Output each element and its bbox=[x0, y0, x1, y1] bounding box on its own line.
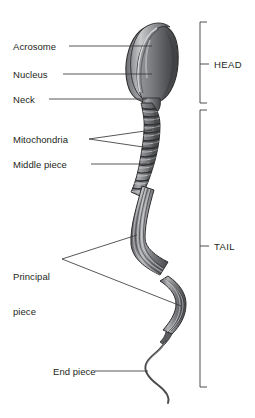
label-principal-piece-line2: piece bbox=[13, 306, 50, 318]
label-mitochondria: Mitochondria bbox=[13, 134, 68, 146]
leader-mitochondria-b bbox=[89, 139, 150, 148]
label-neck: Neck bbox=[13, 94, 35, 106]
tail-taper bbox=[160, 332, 172, 345]
label-end-piece: End piece bbox=[53, 366, 96, 378]
label-region-head: HEAD bbox=[214, 59, 242, 71]
label-acrosome: Acrosome bbox=[13, 41, 56, 53]
label-middle-piece: Middle piece bbox=[13, 159, 67, 171]
bracket-tail bbox=[200, 110, 207, 387]
leader-principal-piece-a bbox=[62, 235, 137, 259]
label-principal-piece: Principal piece bbox=[13, 248, 50, 340]
label-principal-piece-line1: Principal bbox=[13, 271, 50, 283]
region-brackets bbox=[200, 22, 209, 387]
principal-piece-upper bbox=[131, 186, 169, 277]
sperm-anatomy-figure: Acrosome Nucleus Neck Mitochondria Middl… bbox=[0, 0, 255, 418]
bracket-head bbox=[200, 22, 207, 103]
label-region-tail: TAIL bbox=[214, 241, 235, 253]
end-piece-flagellum bbox=[145, 341, 168, 403]
principal-piece-upper-body bbox=[131, 186, 168, 275]
middle-piece bbox=[126, 102, 163, 198]
principal-piece-lower bbox=[160, 276, 186, 334]
label-nucleus: Nucleus bbox=[13, 69, 48, 81]
leader-mitochondria-a bbox=[89, 130, 152, 139]
sperm-head bbox=[126, 23, 178, 103]
sperm-cell-illustration bbox=[126, 23, 186, 403]
